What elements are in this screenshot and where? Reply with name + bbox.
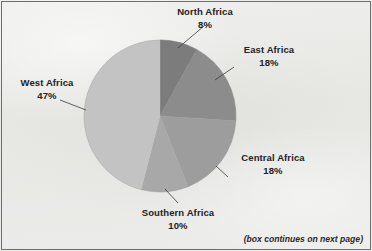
pie-label-central-africa: Central Africa 18% bbox=[230, 152, 316, 177]
pie-label-north-africa: North Africa 8% bbox=[166, 6, 244, 31]
pie-label-east-africa-name: East Africa bbox=[244, 44, 294, 55]
pie-label-west-africa-name: West Africa bbox=[21, 77, 74, 88]
pie-label-central-africa-name: Central Africa bbox=[241, 152, 304, 163]
pie-label-north-africa-name: North Africa bbox=[177, 6, 233, 17]
figure-box: North Africa 8% East Africa 18% Central … bbox=[0, 0, 372, 251]
pie-label-southern-africa: Southern Africa 10% bbox=[132, 207, 224, 232]
pie-label-east-africa-value: 18% bbox=[232, 57, 306, 70]
pie-label-west-africa-value: 47% bbox=[10, 90, 84, 103]
pie-label-north-africa-value: 8% bbox=[166, 19, 244, 32]
pie-label-southern-africa-name: Southern Africa bbox=[142, 207, 214, 218]
pie-slice-group bbox=[84, 40, 236, 192]
pie-label-east-africa: East Africa 18% bbox=[232, 44, 306, 69]
pie-chart: North Africa 8% East Africa 18% Central … bbox=[0, 0, 372, 251]
pie-label-southern-africa-value: 10% bbox=[132, 220, 224, 233]
pie-label-west-africa: West Africa 47% bbox=[10, 77, 84, 102]
continuation-footnote: (box continues on next page) bbox=[244, 234, 363, 244]
pie-label-central-africa-value: 18% bbox=[230, 165, 316, 178]
leader-line-central-africa bbox=[216, 166, 228, 177]
